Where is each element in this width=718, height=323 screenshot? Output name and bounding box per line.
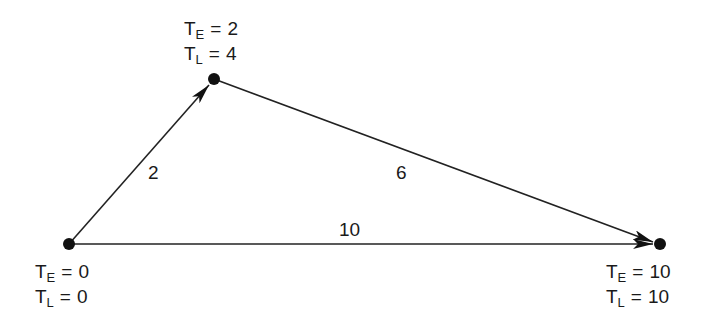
edge-middle-end (214, 79, 653, 242)
node-middle-labels: TE=2 TL=4 (184, 18, 238, 67)
latest-time-label: TL=4 (184, 43, 237, 67)
earliest-time-label: TE=2 (184, 18, 238, 42)
edge-duration-label: 2 (148, 162, 159, 183)
edge-start-middle (69, 85, 209, 244)
network-diagram: 2 6 10 TE=2 TL=4 TE=0 TL=0 TE=10 TL=10 (0, 0, 718, 323)
earliest-time-label: TE=10 (606, 261, 671, 285)
edge-duration-label: 10 (339, 219, 360, 240)
node-end-labels: TE=10 TL=10 (606, 261, 671, 310)
node-start (63, 238, 75, 250)
latest-time-label: TL=0 (35, 286, 88, 310)
arrow-icon (214, 79, 653, 242)
earliest-time-label: TE=0 (35, 261, 89, 285)
node-start-labels: TE=0 TL=0 (35, 261, 89, 310)
edge-duration-label: 6 (396, 162, 407, 183)
node-middle (208, 73, 220, 85)
latest-time-label: TL=10 (606, 286, 669, 310)
arrow-icon (69, 85, 209, 244)
node-end (654, 238, 666, 250)
